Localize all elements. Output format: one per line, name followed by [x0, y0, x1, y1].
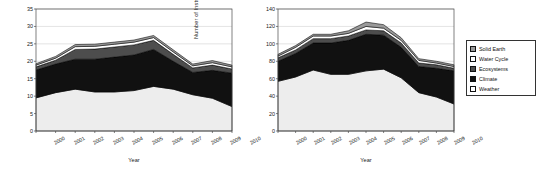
- y-tick-label: 100: [256, 41, 275, 47]
- y-tick-label: 35: [14, 6, 33, 12]
- legend-swatch-icon: [470, 66, 476, 72]
- legend-item[interactable]: Climate: [470, 74, 532, 84]
- legend-item[interactable]: Weather: [470, 84, 532, 94]
- legend-item[interactable]: Solid Earth: [470, 44, 532, 54]
- stacked-area-chart-figure: Number of Missions Year 0510152025303520…: [0, 0, 544, 171]
- y-tick-label: 40: [256, 93, 275, 99]
- legend-item[interactable]: Water Cycle: [470, 54, 532, 64]
- legend-item-label: Solid Earth: [479, 46, 505, 52]
- x-tick-label: 2010: [462, 135, 484, 151]
- y-tick-label: 0: [256, 128, 275, 134]
- x-axis-title-instruments: Year: [326, 157, 406, 163]
- y-tick-label: 15: [14, 76, 33, 82]
- y-tick-label: 10: [14, 93, 33, 99]
- x-axis-title-missions: Year: [94, 157, 174, 163]
- legend-swatch-icon: [470, 76, 476, 82]
- y-tick-label: 20: [256, 111, 275, 117]
- y-tick-label: 80: [256, 58, 275, 64]
- legend-item-label: Water Cycle: [479, 56, 508, 62]
- chart-legend: Solid EarthWater CycleEcosystemsClimateW…: [466, 40, 536, 96]
- legend-swatch-icon: [470, 86, 476, 92]
- chart-panel-instruments: Number of Instruments Year 0204060801001…: [236, 0, 458, 171]
- y-tick-label: 140: [256, 6, 275, 12]
- y-tick-label: 20: [14, 58, 33, 64]
- y-tick-label: 30: [14, 23, 33, 29]
- y-tick-label: 5: [14, 111, 33, 117]
- legend-swatch-icon: [470, 46, 476, 52]
- legend-item-label: Climate: [479, 76, 497, 82]
- legend-swatch-icon: [470, 56, 476, 62]
- y-tick-label: 0: [14, 128, 33, 134]
- y-tick-label: 120: [256, 23, 275, 29]
- legend-item-label: Ecosystems: [479, 66, 508, 72]
- y-tick-label: 60: [256, 76, 275, 82]
- legend-item[interactable]: Ecosystems: [470, 64, 532, 74]
- y-axis-title-instruments: Number of Instruments: [193, 0, 204, 65]
- y-tick-label: 25: [14, 41, 33, 47]
- legend-item-label: Weather: [479, 86, 499, 92]
